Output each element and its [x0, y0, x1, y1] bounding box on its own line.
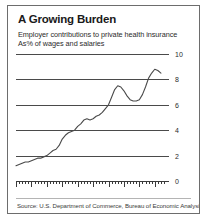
x-axis-minor-tick [81, 181, 82, 184]
x-axis-minor-tick [164, 181, 165, 184]
x-axis-minor-tick [146, 181, 147, 184]
series-polyline [16, 69, 161, 166]
x-axis-major-tick [47, 181, 48, 187]
x-axis-major-tick [16, 181, 17, 187]
y-axis-tick [164, 156, 169, 157]
series-line [16, 54, 164, 181]
x-axis-minor-tick [102, 181, 103, 184]
x-axis-minor-tick [53, 181, 54, 184]
x-axis-minor-tick [142, 181, 143, 184]
x-axis-minor-tick [133, 181, 134, 184]
x-axis-major-tick [124, 181, 125, 187]
x-axis-minor-tick [121, 181, 122, 184]
chart-title: A Growing Burden [18, 13, 116, 25]
x-axis-minor-tick [19, 181, 20, 184]
x-axis-major-tick [139, 181, 140, 187]
x-axis-minor-tick [127, 181, 128, 184]
x-axis-major-tick [31, 181, 32, 187]
x-axis-major-tick [155, 181, 156, 187]
x-axis-minor-tick [65, 181, 66, 184]
x-axis-minor-tick [105, 181, 106, 184]
x-axis-major-tick [62, 181, 63, 187]
x-axis-minor-tick [115, 181, 116, 184]
y-axis-tick [164, 105, 169, 106]
y-axis-tick-label: 8 [175, 76, 179, 83]
plot-area: 1086420 196065707580859095200007 [16, 54, 164, 181]
y-axis-tick [164, 79, 169, 80]
x-axis-minor-tick [72, 181, 73, 184]
x-axis-minor-tick [149, 181, 150, 184]
x-axis-minor-tick [28, 181, 29, 184]
y-axis-tick-label: 0 [175, 178, 179, 185]
x-axis-minor-tick [136, 181, 137, 184]
source-divider [16, 198, 191, 199]
x-axis-minor-tick [161, 181, 162, 184]
x-axis-minor-tick [84, 181, 85, 184]
x-axis-minor-tick [112, 181, 113, 184]
x-axis-minor-tick [87, 181, 88, 184]
x-axis-minor-tick [56, 181, 57, 184]
y-axis-tick-label: 6 [175, 101, 179, 108]
x-axis-minor-tick [22, 181, 23, 184]
x-axis-minor-tick [35, 181, 36, 184]
x-axis-major-tick [109, 181, 110, 187]
x-axis-major-tick [78, 181, 79, 187]
y-axis-tick [164, 130, 169, 131]
x-axis-minor-tick [25, 181, 26, 184]
chart-source: Source: U.S. Department of Commerce, Bur… [17, 202, 200, 209]
x-axis-minor-tick [44, 181, 45, 184]
y-axis-tick-label: 2 [175, 152, 179, 159]
y-axis-tick-label: 4 [175, 127, 179, 134]
x-axis-minor-tick [50, 181, 51, 184]
chart-subtitle: Employer contributions to private health… [18, 30, 193, 49]
x-axis-minor-tick [152, 181, 153, 184]
chart-card: A Growing Burden Employer contributions … [7, 5, 200, 214]
x-axis-minor-tick [41, 181, 42, 184]
chart-subtitle-line-1: Employer contributions to private health… [18, 30, 193, 39]
y-axis-tick-label: 10 [175, 51, 183, 58]
x-axis-major-tick [93, 181, 94, 187]
x-axis-minor-tick [158, 181, 159, 184]
y-axis-tick [164, 54, 169, 55]
chart-subtitle-line-2: As% of wages and salaries [18, 39, 193, 48]
x-axis-minor-tick [90, 181, 91, 184]
x-axis-minor-tick [59, 181, 60, 184]
x-axis-minor-tick [118, 181, 119, 184]
x-axis-minor-tick [99, 181, 100, 184]
x-axis-minor-tick [75, 181, 76, 184]
x-axis-minor-tick [38, 181, 39, 184]
x-axis-minor-tick [68, 181, 69, 184]
x-axis-minor-tick [96, 181, 97, 184]
x-axis-minor-tick [130, 181, 131, 184]
